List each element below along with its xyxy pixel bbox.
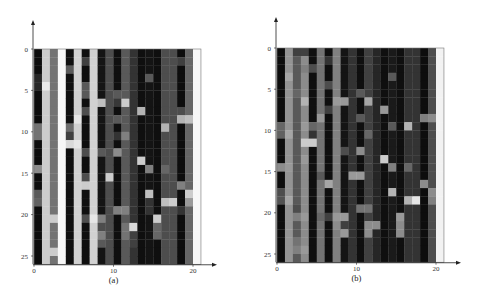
heatmap-cell bbox=[161, 239, 169, 248]
heatmap-cell bbox=[58, 99, 66, 108]
heatmap-cell bbox=[349, 114, 357, 123]
heatmap-cell bbox=[380, 48, 388, 57]
heatmap-cell bbox=[106, 239, 114, 248]
heatmap-cell bbox=[428, 155, 436, 164]
heatmap-cell bbox=[74, 57, 82, 66]
heatmap-cell bbox=[412, 221, 420, 230]
heatmap-cell bbox=[58, 132, 66, 141]
heatmap-cell bbox=[90, 132, 98, 141]
heatmap-cell bbox=[341, 147, 349, 156]
heatmap-cell bbox=[301, 97, 309, 106]
heatmap-cell bbox=[309, 97, 317, 106]
heatmap-cell bbox=[185, 231, 193, 240]
heatmap-cell bbox=[50, 148, 58, 157]
heatmap-cell bbox=[325, 48, 333, 57]
heatmap-cell bbox=[114, 165, 122, 174]
heatmap-cell bbox=[114, 256, 122, 265]
y-tick-label: 20 bbox=[21, 211, 29, 219]
heatmap-cell bbox=[317, 114, 325, 123]
heatmap-cell bbox=[277, 254, 285, 263]
heatmap-cell bbox=[145, 148, 153, 157]
heatmap-cell bbox=[380, 238, 388, 247]
heatmap-cell bbox=[388, 64, 396, 73]
heatmap-cell bbox=[380, 147, 388, 156]
heatmap-cell bbox=[428, 196, 436, 205]
heatmap-cell bbox=[58, 74, 66, 83]
heatmap-cell bbox=[404, 106, 412, 115]
heatmap-cell bbox=[185, 132, 193, 141]
heatmap-cell bbox=[129, 49, 137, 58]
heatmap-cell bbox=[317, 229, 325, 238]
heatmap-cell bbox=[428, 147, 436, 156]
heatmap-cell bbox=[153, 66, 161, 75]
heatmap-cell bbox=[285, 188, 293, 197]
heatmap-cell bbox=[285, 81, 293, 90]
heatmap-cell bbox=[364, 81, 372, 90]
heatmap-cell bbox=[309, 205, 317, 214]
heatmap-cell bbox=[436, 106, 444, 115]
heatmap-cell bbox=[364, 180, 372, 189]
heatmap-cell bbox=[66, 239, 74, 248]
heatmap-cell bbox=[82, 198, 90, 207]
heatmap-cell bbox=[285, 89, 293, 98]
heatmap-cell bbox=[309, 238, 317, 247]
heatmap-cell bbox=[436, 196, 444, 205]
heatmap-cell bbox=[82, 49, 90, 58]
heatmap-cell bbox=[169, 256, 177, 265]
heatmap-cell bbox=[169, 223, 177, 232]
heatmap-cell bbox=[380, 221, 388, 230]
heatmap-cell bbox=[153, 239, 161, 248]
heatmap-cell bbox=[364, 56, 372, 65]
heatmap-cell bbox=[74, 107, 82, 116]
heatmap-cell bbox=[90, 82, 98, 91]
heatmap-cell bbox=[325, 205, 333, 214]
heatmap-cell bbox=[357, 180, 365, 189]
heatmap-cell bbox=[145, 57, 153, 66]
heatmap-cell bbox=[317, 139, 325, 148]
heatmap-cell bbox=[380, 139, 388, 148]
heatmap-cell bbox=[169, 198, 177, 207]
heatmap-cell bbox=[114, 74, 122, 83]
heatmap-cell bbox=[50, 248, 58, 257]
heatmap-cell bbox=[90, 57, 98, 66]
heatmap-cell bbox=[428, 114, 436, 123]
heatmap-cell bbox=[34, 190, 42, 199]
heatmap-cell bbox=[145, 124, 153, 133]
heatmap-cell bbox=[325, 106, 333, 115]
heatmap-cell bbox=[349, 238, 357, 247]
heatmap-cell bbox=[404, 147, 412, 156]
heatmap-cell bbox=[285, 246, 293, 255]
heatmap-cell bbox=[82, 74, 90, 83]
heatmap-cell bbox=[301, 163, 309, 172]
heatmap-cell bbox=[285, 180, 293, 189]
y-tick-label: 25 bbox=[264, 251, 272, 259]
heatmap-cell bbox=[193, 90, 201, 99]
heatmap-cell bbox=[341, 188, 349, 197]
heatmap-cell bbox=[185, 140, 193, 149]
heatmap-cell bbox=[349, 73, 357, 82]
heatmap-cell bbox=[169, 148, 177, 157]
heatmap-cell bbox=[404, 221, 412, 230]
heatmap-cell bbox=[357, 114, 365, 123]
heatmap-cell bbox=[66, 190, 74, 199]
heatmap-cell bbox=[114, 90, 122, 99]
heatmap-cell bbox=[277, 188, 285, 197]
heatmap-cell bbox=[185, 115, 193, 124]
heatmap-cell bbox=[193, 82, 201, 91]
heatmap-cell bbox=[74, 157, 82, 166]
heatmap-cell bbox=[82, 66, 90, 75]
heatmap-cell bbox=[341, 106, 349, 115]
heatmap-cell bbox=[364, 254, 372, 263]
heatmap-cell bbox=[34, 198, 42, 207]
heatmap-cell bbox=[169, 74, 177, 83]
heatmap-cell bbox=[349, 188, 357, 197]
heatmap-cell bbox=[420, 56, 428, 65]
heatmap-cell bbox=[34, 57, 42, 66]
heatmap-cell bbox=[137, 190, 145, 199]
heatmap-cell bbox=[34, 173, 42, 182]
heatmap-cell bbox=[285, 48, 293, 57]
heatmap-cell bbox=[325, 89, 333, 98]
heatmap-cell bbox=[293, 48, 301, 57]
heatmap-cell bbox=[42, 57, 50, 66]
heatmap-cell bbox=[388, 163, 396, 172]
